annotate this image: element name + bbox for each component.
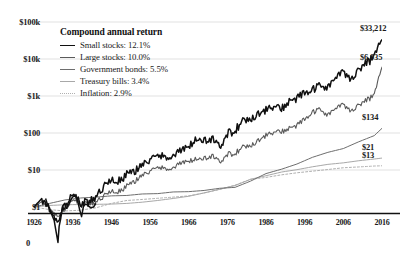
legend-swatch-government-bonds (60, 69, 75, 70)
x-axis-tick-label: 2016 (362, 218, 402, 227)
legend-item-treasury-bills: Treasury bills: 3.4% (60, 75, 168, 87)
x-axis-tick-label: 2006 (323, 218, 363, 227)
zero-annotation: 0 (26, 238, 30, 248)
legend-title: Compound annual return (60, 27, 168, 37)
chart-legend: Compound annual return Small stocks: 12.… (60, 27, 168, 99)
legend-rows: Small stocks: 12.1%Large stocks: 10.0%Go… (60, 39, 168, 99)
end-value-label-small-stocks: $33,212 (360, 23, 386, 33)
legend-swatch-small-stocks (60, 45, 75, 46)
y-axis-tick-label: $10 (4, 165, 40, 175)
y-axis-tick-label: $1 (4, 202, 40, 212)
end-value-label-government-bonds: $134 (362, 112, 378, 122)
x-axis-tick-label: 1966 (169, 218, 209, 227)
legend-item-government-bonds: Government bonds: 5.5% (60, 63, 168, 75)
legend-label: Small stocks: 12.1% (80, 40, 150, 50)
end-value-label-inflation: $13 (362, 150, 374, 160)
legend-swatch-treasury-bills (60, 81, 75, 82)
y-axis-tick-label: $1k (4, 91, 40, 101)
legend-item-large-stocks: Large stocks: 10.0% (60, 51, 168, 63)
legend-swatch-large-stocks (60, 57, 75, 58)
legend-label: Large stocks: 10.0% (80, 52, 150, 62)
x-axis-tick-label: 1946 (91, 218, 131, 227)
y-axis-tick-label: $100k (4, 17, 40, 27)
x-axis-tick-label: 1996 (285, 218, 325, 227)
end-value-label-large-stocks: $6,035 (360, 52, 382, 62)
legend-label: Government bonds: 5.5% (80, 64, 168, 74)
chart-container: $100k$10k$1k$100$10$1 192619361946195619… (0, 0, 414, 262)
x-axis-tick-label: 1936 (53, 218, 93, 227)
y-axis-tick-label: $100 (4, 128, 40, 138)
legend-item-inflation: Inflation: 2.9% (60, 87, 168, 99)
y-axis-tick-label: $10k (4, 54, 40, 64)
legend-label: Treasury bills: 3.4% (80, 76, 149, 86)
series-line-government-bonds (34, 128, 382, 207)
x-axis-tick-label: 1956 (130, 218, 170, 227)
x-axis-tick-label: 1926 (14, 218, 54, 227)
legend-swatch-inflation (60, 93, 75, 94)
x-axis-tick-label: 1986 (246, 218, 286, 227)
x-axis-tick-label: 1976 (207, 218, 247, 227)
legend-label: Inflation: 2.9% (80, 88, 132, 98)
legend-item-small-stocks: Small stocks: 12.1% (60, 39, 168, 51)
